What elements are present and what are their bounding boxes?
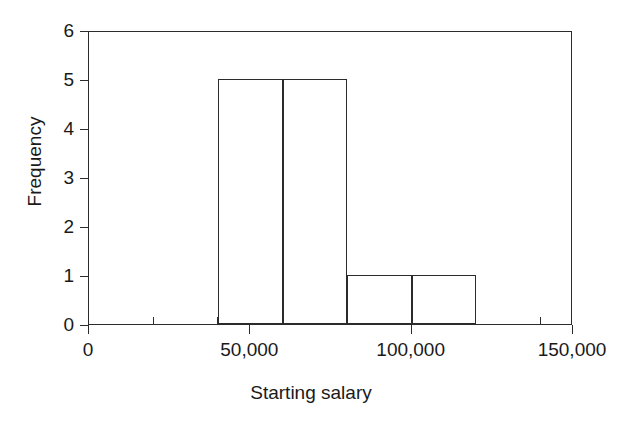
histogram-bar bbox=[412, 275, 477, 324]
histogram-bar bbox=[218, 79, 283, 324]
histogram-bar bbox=[283, 79, 348, 324]
y-axis-tick-label: 0 bbox=[14, 315, 74, 334]
y-axis-tick-label: 5 bbox=[14, 70, 74, 89]
y-axis-tick-label: 3 bbox=[14, 168, 74, 187]
y-axis-tick-label: 6 bbox=[14, 21, 74, 40]
x-axis-tick-minor bbox=[540, 317, 541, 325]
x-axis-tick-label: 150,000 bbox=[502, 339, 622, 361]
y-axis-tick bbox=[80, 227, 88, 228]
x-axis-tick-major bbox=[249, 325, 250, 334]
x-axis-tick-minor bbox=[217, 317, 218, 325]
x-axis-tick-minor bbox=[475, 317, 476, 325]
y-axis-tick bbox=[80, 178, 88, 179]
plot-area bbox=[88, 31, 572, 325]
y-axis-tick bbox=[80, 129, 88, 130]
histogram-figure: Frequency 0123456 050,000100,000150,000 … bbox=[0, 0, 622, 432]
x-axis-tick-minor bbox=[346, 317, 347, 325]
y-axis-tick bbox=[80, 276, 88, 277]
x-axis-tick-major bbox=[88, 325, 89, 334]
x-axis-title: Starting salary bbox=[0, 382, 622, 404]
y-axis-tick-label: 1 bbox=[14, 266, 74, 285]
x-axis-tick-minor bbox=[153, 317, 154, 325]
x-axis-tick-minor bbox=[282, 317, 283, 325]
x-axis-tick-label: 0 bbox=[18, 339, 158, 361]
y-axis-tick-label: 4 bbox=[14, 119, 74, 138]
x-axis-tick-major bbox=[572, 325, 573, 334]
y-axis-tick bbox=[80, 325, 88, 326]
y-axis-tick-label: 2 bbox=[14, 217, 74, 236]
x-axis-tick-label: 50,000 bbox=[179, 339, 319, 361]
y-axis-tick bbox=[80, 31, 88, 32]
x-axis-tick-major bbox=[411, 325, 412, 334]
y-axis-tick bbox=[80, 80, 88, 81]
x-axis-tick-label: 100,000 bbox=[341, 339, 481, 361]
histogram-bar bbox=[347, 275, 412, 324]
